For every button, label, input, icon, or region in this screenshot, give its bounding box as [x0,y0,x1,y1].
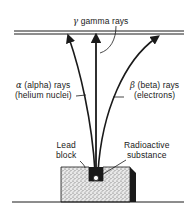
alpha-symbol: α [16,80,22,90]
lead-line1: Lead [56,140,76,150]
alpha-line1: (alpha) rays [24,80,70,90]
gamma-text: gamma rays [81,16,129,26]
beta-line2: (electrons) [134,90,179,100]
gamma-symbol: γ [73,16,78,26]
lead-block [61,167,136,202]
lead-line2: block [56,150,76,160]
source-line1: Radioactive [124,140,170,150]
beta-label: β (beta) rays (electrons) [130,80,179,100]
detector-plate [14,31,184,34]
alpha-label: α (alpha) rays (helium nuclei) [16,80,72,100]
alpha-line2: (helium nuclei) [15,90,72,100]
radioactive-source [93,175,98,180]
gamma-label: γ gamma rays [73,16,128,26]
beta-symbol: β [130,80,135,90]
beta-line1: (beta) rays [137,80,179,90]
source-line2: substance [124,150,170,160]
lead-block-label: Lead block [56,140,76,160]
diagram-graphics [0,0,193,211]
source-label: Radioactive substance [124,140,170,160]
gamma-leader-line [100,26,116,53]
radiation-diagram: γ gamma rays α (alpha) rays (helium nucl… [0,0,193,211]
